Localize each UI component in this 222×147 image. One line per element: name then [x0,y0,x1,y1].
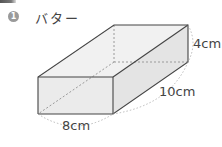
height-label: 4cm [193,36,221,51]
prism-diagram [0,0,222,147]
front-face [38,77,113,114]
depth-label: 10cm [159,84,195,99]
width-label: 8cm [62,118,90,133]
